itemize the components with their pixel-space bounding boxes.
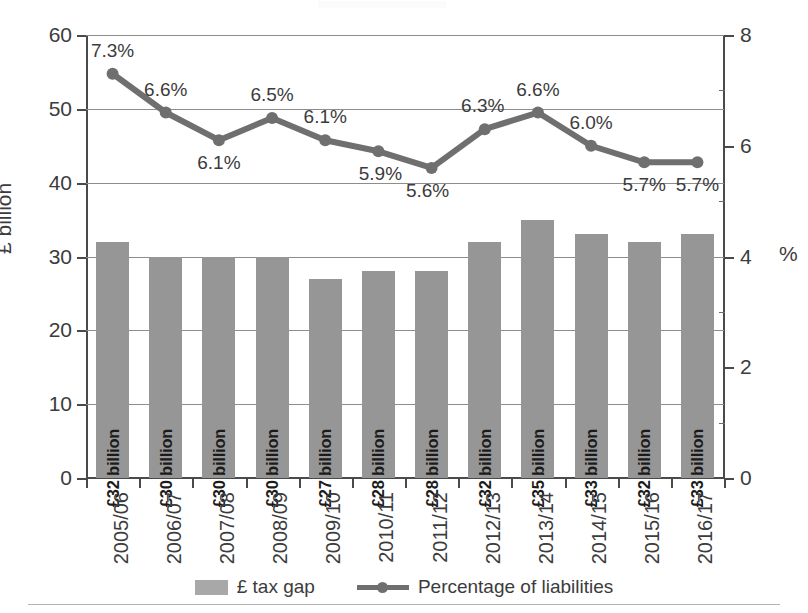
bar: £35 billion — [521, 220, 554, 478]
line-data-label: 6.1% — [304, 106, 347, 128]
chart-figure: 0102030405060 02468 £ billion % £32 bill… — [0, 0, 808, 613]
line-data-label: 6.1% — [197, 152, 240, 174]
right-axis-tick — [725, 146, 734, 148]
bar: £32 billion — [96, 242, 129, 478]
x-axis-tick — [458, 479, 460, 488]
line-data-label: 6.6% — [144, 79, 187, 101]
footer-rule — [28, 604, 780, 605]
x-axis-tick-label: 2016/17 — [694, 492, 717, 564]
line-marker — [479, 123, 491, 135]
line-marker — [372, 145, 384, 157]
x-axis-tick-label: 2006/07 — [162, 492, 185, 564]
line-data-label: 5.7% — [676, 174, 719, 196]
x-axis-tick-label: 2010/11 — [375, 492, 398, 563]
x-axis-tick — [405, 479, 407, 488]
right-axis-tick — [725, 367, 734, 369]
x-axis-tick — [565, 479, 567, 488]
bar: £32 billion — [468, 242, 501, 478]
scan-artifact — [318, 1, 446, 8]
line-marker — [426, 162, 438, 174]
right-axis-tick — [725, 257, 734, 259]
line-marker — [319, 134, 331, 146]
x-axis-tick-label: 2015/16 — [641, 492, 664, 564]
x-axis-tick — [86, 479, 88, 488]
line-data-label: 6.6% — [516, 79, 559, 101]
legend-line-marker — [377, 582, 388, 593]
bar: £30 billion — [256, 257, 289, 479]
left-axis-tick-label-text: 50 — [49, 97, 72, 121]
left-axis-tick — [77, 35, 86, 37]
right-axis-tick — [725, 478, 734, 480]
left-axis-tick — [77, 404, 86, 406]
x-axis-tick — [618, 479, 620, 488]
line-data-label: 5.7% — [623, 174, 666, 196]
bar: £32 billion — [628, 242, 661, 478]
line-data-label: 6.5% — [250, 84, 293, 106]
legend-label: Percentage of liabilities — [418, 576, 613, 598]
bar: £30 billion — [202, 257, 235, 479]
line-marker — [691, 156, 703, 168]
gridline — [86, 35, 724, 36]
line-marker — [638, 156, 650, 168]
bar: £28 billion — [415, 271, 448, 478]
x-axis-tick — [352, 479, 354, 488]
left-axis-tick-label-text: 40 — [49, 171, 72, 195]
x-axis-tick — [299, 479, 301, 488]
x-axis-tick-label: 2009/10 — [322, 492, 345, 564]
right-axis-tick — [725, 35, 734, 37]
legend-item[interactable]: £ tax gap — [195, 576, 315, 598]
plot-area: £32 billion£30 billion£30 billion£30 bil… — [86, 35, 724, 478]
line-marker — [107, 68, 119, 80]
x-axis-tick — [511, 479, 513, 488]
bar: £33 billion — [575, 234, 608, 478]
gridline — [86, 109, 724, 110]
x-axis-tick-label: 2008/09 — [269, 492, 292, 564]
bar: £30 billion — [149, 257, 182, 479]
x-axis-tick-label: 2005/06 — [109, 492, 132, 564]
x-axis-tick-label: 2013/14 — [534, 492, 557, 564]
line-data-label: 6.3% — [461, 95, 504, 117]
left-axis-tick — [77, 330, 86, 332]
line-marker — [266, 112, 278, 124]
x-axis-tick — [724, 479, 726, 488]
legend-item[interactable]: Percentage of liabilities — [357, 576, 613, 598]
left-axis-tick-label-text: 60 — [49, 23, 72, 47]
line-data-label: 6.0% — [569, 112, 612, 134]
line-data-label: 5.6% — [406, 180, 449, 202]
right-axis-tick-label: 6 — [740, 134, 752, 158]
x-axis-tick — [671, 479, 673, 488]
x-axis-tick-label: 2014/15 — [588, 492, 611, 564]
right-axis-tick-label: 4 — [740, 245, 752, 269]
left-axis-tick — [77, 183, 86, 185]
bar: £33 billion — [681, 234, 714, 478]
legend-bar-swatch-icon — [195, 580, 228, 595]
left-axis-tick-label-text: 30 — [49, 245, 72, 269]
x-axis-tick-label: 2007/08 — [215, 492, 238, 564]
bar: £28 billion — [362, 271, 395, 478]
left-axis-tick — [77, 257, 86, 259]
x-axis-tick — [192, 479, 194, 488]
x-axis-tick-label: 2012/13 — [481, 492, 504, 564]
left-axis-tick-label-text: 20 — [49, 318, 72, 342]
line-data-label: 7.3% — [91, 40, 134, 62]
line-marker — [585, 140, 597, 152]
chart-legend: £ tax gapPercentage of liabilities — [0, 576, 808, 598]
line-marker — [213, 134, 225, 146]
left-axis-tick — [77, 109, 86, 111]
x-axis-tick — [139, 479, 141, 488]
legend-label: £ tax gap — [237, 576, 315, 598]
right-axis-tick-label: 2 — [740, 355, 752, 379]
line-data-label: 5.9% — [359, 163, 402, 185]
bar: £27 billion — [309, 279, 342, 478]
right-axis-tick-label: 0 — [740, 466, 752, 490]
x-axis-tick-label: 2011/12 — [428, 492, 451, 563]
left-axis-tick-label-text: 10 — [49, 392, 72, 416]
right-axis-title: % — [779, 242, 798, 266]
legend-line-swatch-icon — [357, 580, 409, 594]
x-axis-tick — [246, 479, 248, 488]
right-axis-tick-label: 8 — [740, 23, 752, 47]
left-axis-tick — [77, 478, 86, 480]
left-axis-tick-label-text: 0 — [60, 466, 72, 490]
left-axis-title: £ billion — [0, 183, 16, 254]
